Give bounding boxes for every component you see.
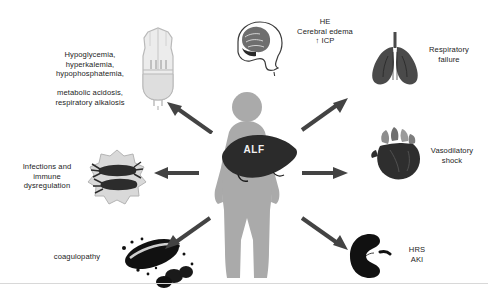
- liver: [218, 128, 300, 184]
- cardiovascular-label: Vasodilatory shock: [420, 146, 484, 165]
- neurologic-label: HE Cerebral edema ↑ ICP: [288, 17, 362, 46]
- immune-cells-icon: [86, 148, 148, 210]
- renal-label: HRS AKI: [392, 245, 442, 264]
- arrow-to-immune: [152, 166, 200, 180]
- metabolic-label: Hypoglycemia, hyperkalemia, hypophosphat…: [44, 50, 136, 108]
- respiratory-label: Respiratory failure: [416, 45, 482, 64]
- kidney-icon: [344, 230, 392, 282]
- alf-organ-label: ALF: [232, 144, 276, 155]
- arrow-to-coagulopathy: [163, 216, 211, 250]
- arrow-to-respiratory: [300, 96, 350, 132]
- arrow-to-metabolic: [165, 100, 213, 134]
- bottom-divider: [0, 283, 488, 284]
- arrow-to-cardiovascular: [300, 166, 350, 180]
- iv-fluid-bag-icon: [132, 26, 184, 110]
- heart-icon: [368, 124, 428, 186]
- coagulation-label: coagulopathy: [44, 252, 110, 262]
- patient-silhouette: [212, 90, 282, 280]
- alf-complications-diagram: ALF HE Cerebral edema ↑ ICP Respiratory …: [0, 0, 488, 298]
- immune-label: Infections and immune dysregulation: [10, 162, 84, 191]
- arrow-to-renal: [300, 216, 350, 252]
- brain-head-icon: [228, 18, 290, 76]
